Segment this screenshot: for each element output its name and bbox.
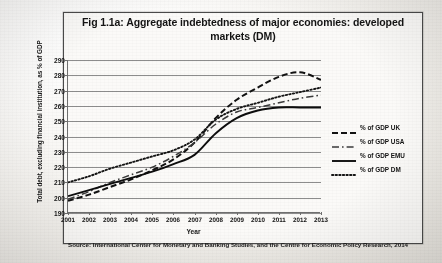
- legend-swatch: [331, 165, 357, 173]
- legend-item: % of GDP UK: [331, 120, 427, 134]
- series-line: [68, 107, 321, 196]
- legend-swatch: [331, 123, 357, 131]
- x-tick-label: 2010: [251, 216, 265, 223]
- series-lines: [68, 60, 321, 213]
- x-tick-label: 2005: [145, 216, 159, 223]
- series-line: [68, 72, 321, 201]
- legend-label: % of GDP DM: [360, 166, 401, 173]
- legend-swatch: [331, 151, 357, 159]
- x-tick-label: 2012: [293, 216, 307, 223]
- legend-label: % of GDP UK: [360, 124, 400, 131]
- y-tick-label: 260: [54, 102, 65, 109]
- x-tick-label: 2008: [209, 216, 223, 223]
- plot-area: 190200210220230240250260270280290 200120…: [67, 60, 320, 213]
- x-tick-label: 2004: [124, 216, 138, 223]
- legend-item: % of GDP USA: [331, 134, 427, 148]
- y-tick-label: 240: [54, 133, 65, 140]
- source-note: Source: International Center for Monetar…: [68, 241, 418, 248]
- legend-item: % of GDP EMU: [331, 148, 427, 162]
- y-tick-label: 250: [54, 118, 65, 125]
- x-tick-label: 2001: [61, 216, 75, 223]
- chart-legend: % of GDP UK% of GDP USA% of GDP EMU% of …: [331, 120, 427, 176]
- y-tick-label: 230: [54, 148, 65, 155]
- series-svg: [68, 60, 321, 213]
- legend-item: % of GDP DM: [331, 162, 427, 176]
- series-line: [68, 95, 321, 199]
- figure-title: Fig 1.1a: Aggregate indebtedness of majo…: [66, 16, 420, 43]
- y-tick-label: 280: [54, 72, 65, 79]
- legend-label: % of GDP USA: [360, 138, 404, 145]
- x-tick-label: 2006: [166, 216, 180, 223]
- legend-label: % of GDP EMU: [360, 152, 405, 159]
- y-tick-label: 290: [54, 57, 65, 64]
- y-tick-label: 270: [54, 87, 65, 94]
- x-tick-label: 2002: [82, 216, 96, 223]
- x-tick-label: 2007: [187, 216, 201, 223]
- x-tick-label: 2003: [103, 216, 117, 223]
- x-tick-label: 2013: [314, 216, 328, 223]
- y-axis-title: Total debt, excluding financial institut…: [36, 17, 43, 227]
- y-tick-label: 210: [54, 179, 65, 186]
- y-tick-label: 220: [54, 164, 65, 171]
- x-tick-label: 2011: [272, 216, 286, 223]
- x-tick-label: 2009: [230, 216, 244, 223]
- scanned-page: Fig 1.1a: Aggregate indebtedness of majo…: [0, 0, 442, 263]
- y-tick-label: 200: [54, 194, 65, 201]
- legend-swatch: [331, 137, 357, 145]
- x-tick-mark: [321, 212, 322, 215]
- x-axis-title: Year: [67, 228, 320, 235]
